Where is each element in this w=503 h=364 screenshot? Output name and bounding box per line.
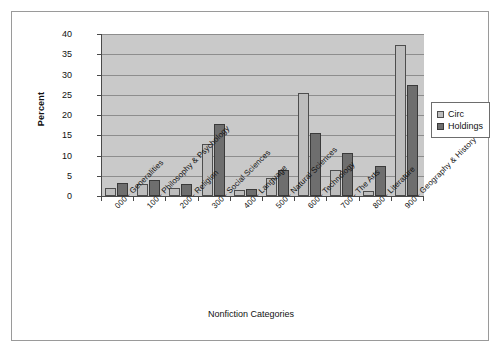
legend-label-holdings: Holdings bbox=[448, 121, 483, 131]
x-tick-mark bbox=[101, 197, 102, 201]
chart-legend: Circ Holdings bbox=[431, 102, 490, 138]
x-tick-mark bbox=[133, 197, 134, 201]
y-tick-label: 15 bbox=[42, 131, 72, 140]
legend-label-circ: Circ bbox=[448, 109, 464, 119]
x-tick-mark bbox=[326, 197, 327, 201]
x-tick-mark bbox=[165, 197, 166, 201]
x-tick-mark bbox=[198, 197, 199, 201]
legend-item-circ: Circ bbox=[437, 109, 483, 119]
y-tick-label: 20 bbox=[42, 111, 72, 120]
x-tick-mark bbox=[262, 197, 263, 201]
y-tick-label: 10 bbox=[42, 152, 72, 161]
y-tick-label: 5 bbox=[42, 172, 72, 181]
x-tick-mark bbox=[391, 197, 392, 201]
bar-circ bbox=[105, 188, 116, 196]
x-tick-mark bbox=[230, 197, 231, 201]
chart-frame: Percent 0510152025303540 000 - Generalit… bbox=[11, 11, 489, 341]
legend-item-holdings: Holdings bbox=[437, 121, 483, 131]
y-tick-label: 0 bbox=[42, 192, 72, 201]
bar-holdings bbox=[407, 85, 418, 196]
x-tick-mark bbox=[294, 197, 295, 201]
y-tick-label: 35 bbox=[42, 50, 72, 59]
bar-circ bbox=[363, 191, 374, 196]
legend-swatch-circ-icon bbox=[437, 111, 444, 118]
x-axis-title: Nonfiction Categories bbox=[12, 309, 490, 319]
x-tick-mark bbox=[359, 197, 360, 201]
y-tick-label: 25 bbox=[42, 91, 72, 100]
bar-group bbox=[102, 34, 134, 196]
x-tick-mark bbox=[423, 197, 424, 201]
y-tick-label: 30 bbox=[42, 71, 72, 80]
y-tick-label: 40 bbox=[42, 30, 72, 39]
legend-swatch-holdings-icon bbox=[437, 123, 444, 130]
